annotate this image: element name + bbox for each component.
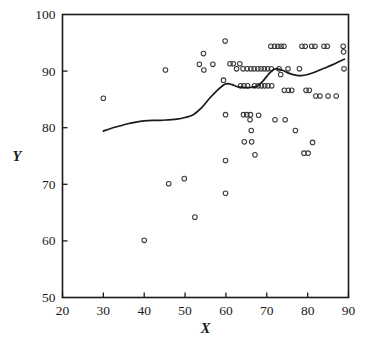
y-tick-label: 90 <box>42 64 56 79</box>
data-point <box>342 67 347 72</box>
x-tick-label: 90 <box>342 303 356 318</box>
trend-curve <box>103 59 344 131</box>
data-point <box>249 140 254 145</box>
y-tick-label: 100 <box>35 7 56 22</box>
data-point <box>166 181 171 186</box>
data-point <box>310 140 315 145</box>
data-point <box>313 44 318 49</box>
data-point <box>341 44 346 49</box>
data-point <box>334 94 339 99</box>
x-tick-label: 50 <box>178 303 192 318</box>
data-point <box>303 44 308 49</box>
figure-container: 20304050607080905060708090100 X Y <box>0 0 365 347</box>
data-point <box>297 67 302 72</box>
data-point <box>242 140 247 145</box>
data-point <box>223 39 228 44</box>
y-axis-title: Y <box>13 148 23 164</box>
data-point <box>231 61 236 66</box>
data-point <box>221 78 226 83</box>
data-point <box>289 88 294 93</box>
x-tick-label: 30 <box>97 303 111 318</box>
data-point <box>325 44 330 49</box>
data-point <box>201 51 206 56</box>
data-point <box>101 96 106 101</box>
data-point <box>249 128 254 133</box>
data-point <box>283 117 288 122</box>
data-point <box>202 68 207 73</box>
data-point <box>223 191 228 196</box>
data-point <box>293 128 298 133</box>
data-point <box>197 62 202 67</box>
x-tick-label: 80 <box>301 303 315 318</box>
data-point <box>238 61 243 66</box>
data-point <box>163 68 168 73</box>
data-point <box>223 112 228 117</box>
x-tick-label: 40 <box>137 303 151 318</box>
data-point-layer <box>101 39 346 243</box>
data-point <box>307 88 312 93</box>
data-point <box>248 117 253 122</box>
tick-label-layer: 20304050607080905060708090100 <box>35 7 355 318</box>
data-point <box>326 94 331 99</box>
x-tick-label: 70 <box>260 303 274 318</box>
scatter-plot: 20304050607080905060708090100 X Y <box>0 0 365 347</box>
data-point <box>256 113 261 118</box>
data-point <box>142 238 147 243</box>
plot-frame <box>63 15 349 298</box>
data-point <box>286 67 291 72</box>
data-point <box>182 176 187 181</box>
y-tick-label: 60 <box>42 233 56 248</box>
tick-layer <box>63 71 349 297</box>
y-tick-label: 50 <box>42 290 56 305</box>
data-point <box>273 117 278 122</box>
x-axis-title: X <box>200 320 211 336</box>
data-point <box>211 62 216 67</box>
data-point <box>223 158 228 163</box>
data-point <box>278 72 283 77</box>
data-point <box>282 44 287 49</box>
data-point <box>234 67 239 72</box>
data-point <box>193 215 198 220</box>
data-point <box>253 153 258 158</box>
data-point <box>341 50 346 55</box>
y-tick-label: 80 <box>42 120 56 135</box>
y-tick-label: 70 <box>42 177 56 192</box>
x-tick-label: 20 <box>56 303 70 318</box>
x-tick-label: 60 <box>219 303 233 318</box>
